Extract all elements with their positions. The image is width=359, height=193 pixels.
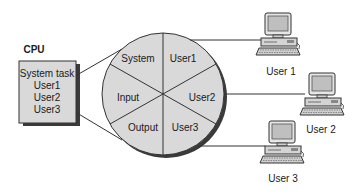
segment-input: Input (117, 92, 139, 103)
user1-computer-icon (256, 13, 300, 55)
cpu-task-user2: User2 (34, 92, 61, 103)
user2-computer-icon (300, 73, 344, 115)
user1-label: User 1 (266, 66, 296, 77)
user2-label: User 2 (306, 124, 336, 135)
user3-computer-icon (260, 121, 304, 163)
cpu-task-system: System task (20, 68, 75, 79)
segment-user3: User3 (172, 122, 199, 133)
cpu-task-user3: User3 (34, 104, 61, 115)
cpu-task-user1: User1 (34, 80, 61, 91)
time-sharing-diagram: CPU System task User1 User2 User3 System… (0, 0, 359, 193)
cpu-title: CPU (23, 44, 44, 55)
segment-output: Output (128, 122, 158, 133)
user3-label: User 3 (268, 173, 298, 184)
segment-user2: User2 (189, 92, 216, 103)
segment-user1: User1 (170, 53, 197, 64)
segment-system: System (121, 53, 154, 64)
